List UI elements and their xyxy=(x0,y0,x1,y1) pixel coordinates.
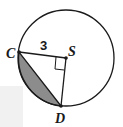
point-d xyxy=(59,104,63,108)
geometry-diagram: C S D 3 xyxy=(0,0,123,127)
radius-sd xyxy=(61,58,66,106)
label-c: C xyxy=(6,46,16,61)
right-angle-marker xyxy=(55,57,64,70)
label-d: D xyxy=(54,111,65,126)
point-c xyxy=(17,50,21,54)
radius-length-label: 3 xyxy=(40,38,47,53)
label-s: S xyxy=(68,44,76,59)
